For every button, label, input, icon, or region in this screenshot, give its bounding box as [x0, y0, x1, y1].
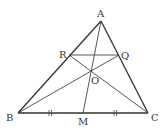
label-q: Q	[121, 50, 129, 61]
label-c: C	[151, 112, 159, 123]
side-ab	[18, 21, 101, 113]
label-o: O	[91, 75, 99, 86]
cevian-bq	[18, 55, 119, 113]
label-r: R	[59, 49, 67, 60]
label-a: A	[96, 8, 105, 19]
cevian-cr	[69, 55, 148, 113]
side-ac	[101, 21, 148, 113]
triangle-diagram: A B C M R Q O	[0, 0, 167, 131]
label-m: M	[78, 116, 88, 127]
label-b: B	[6, 112, 13, 123]
